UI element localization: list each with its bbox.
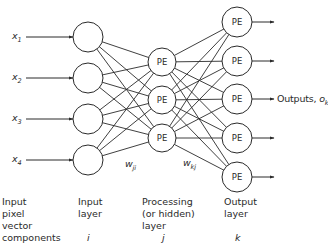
node-label: PE [157, 95, 168, 105]
index-i: i [87, 232, 90, 244]
index-k: k [235, 232, 241, 244]
node-label: PE [232, 133, 243, 143]
index-j: j [162, 232, 165, 244]
output-node: PE [222, 7, 252, 37]
input-node [73, 63, 103, 93]
hidden-node: PE [148, 124, 176, 152]
input-label-x1: x1 [12, 30, 21, 43]
output-layer-nodes: PE PE PE PE PE [222, 7, 252, 192]
output-node: PE [222, 46, 252, 76]
caption-input-vector: Input pixel vector components [2, 196, 61, 244]
outputs-label: Outputs, ok [277, 93, 328, 106]
output-node: PE [222, 162, 252, 192]
input-node [73, 104, 103, 134]
node-label: PE [157, 57, 168, 67]
input-label-x2: x2 [12, 71, 21, 84]
hidden-node: PE [148, 48, 176, 76]
output-node: PE [222, 123, 252, 153]
weight-label-wkj: wkj [183, 157, 196, 170]
node-label: PE [232, 17, 243, 27]
node-label: PE [232, 172, 243, 182]
input-node [73, 22, 103, 52]
input-label-x3: x3 [12, 112, 21, 125]
output-node: PE [222, 84, 252, 114]
caption-output-layer: Output layer [224, 196, 257, 220]
weight-label-wji: wji [125, 158, 136, 171]
hidden-node: PE [148, 86, 176, 114]
input-arrows [26, 37, 73, 160]
input-node [73, 145, 103, 175]
input-layer-nodes [73, 22, 103, 175]
caption-hidden-layer: Processing (or hidden) layer [142, 196, 195, 232]
caption-input-layer: Input layer [78, 196, 103, 220]
input-label-x4: x4 [12, 153, 21, 166]
node-label: PE [232, 94, 243, 104]
node-label: PE [157, 133, 168, 143]
hidden-layer-nodes: PE PE PE [148, 48, 176, 152]
node-label: PE [232, 56, 243, 66]
output-arrows [252, 22, 274, 177]
